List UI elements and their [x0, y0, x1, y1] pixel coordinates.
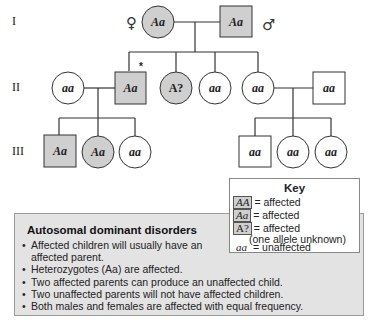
- unaffected-swatch-icon: aa: [233, 241, 250, 253]
- info-bullet: Two affected parents can produce an unaf…: [22, 276, 303, 288]
- gen2-sibling-female-2: aa: [242, 72, 274, 104]
- info-bullet: Heterozygotes (Aa) are affected.: [22, 263, 303, 275]
- key-row-aa: aa= unaffected: [233, 241, 311, 253]
- gen1-mother: Aa: [142, 6, 174, 38]
- gen2-sibling-unknown: A?: [160, 72, 192, 104]
- info-bullet: Two unaffected parents will not have aff…: [22, 288, 303, 300]
- gen2-spouse-left: aa: [52, 72, 84, 104]
- svg-text:aa: aa: [209, 81, 221, 95]
- svg-text:Aa: Aa: [228, 15, 243, 29]
- gen3-left-daughter: aa: [119, 136, 151, 168]
- gen3-left-son: Aa: [44, 135, 76, 167]
- svg-text:Aa: Aa: [150, 15, 165, 29]
- gen2-spouse-right: aa: [313, 72, 345, 104]
- svg-text:A?: A?: [169, 81, 184, 95]
- proband-asterisk-icon: *: [139, 61, 143, 72]
- affected-swatch-icon: AA: [233, 196, 252, 209]
- key-row-AA: AA= affected: [233, 196, 301, 209]
- female-symbol-icon: ♀: [126, 14, 137, 32]
- info-bullet: Both males and females are affected with…: [22, 300, 303, 312]
- gen3-right-daughter-2: aa: [315, 136, 347, 168]
- key-title: Key: [230, 182, 359, 194]
- svg-text:aa: aa: [252, 81, 264, 95]
- info-bullet: Affected children will usually have an a…: [22, 239, 206, 263]
- svg-text:aa: aa: [62, 81, 74, 95]
- male-symbol-icon: ♂: [262, 16, 275, 34]
- affected-swatch-icon: Aa: [233, 209, 251, 222]
- gen1-father: Aa: [220, 6, 252, 37]
- gen2-sibling-female: aa: [199, 72, 231, 104]
- svg-text:aa: aa: [287, 145, 299, 159]
- pedigree-lines: [59, 22, 331, 136]
- gen3-right-son: aa: [239, 136, 271, 167]
- info-title: Autosomal dominant disorders: [27, 224, 197, 236]
- svg-text:aa: aa: [325, 145, 337, 159]
- key-legend: Key AA= affected Aa= affected A?= affect…: [229, 178, 360, 253]
- svg-text:aa: aa: [323, 81, 335, 95]
- gen3-left-daughter-affected: Aa: [82, 136, 114, 168]
- svg-text:aa: aa: [129, 145, 141, 159]
- svg-text:Aa: Aa: [122, 81, 137, 95]
- gen2-proband: Aa *: [115, 61, 146, 104]
- svg-text:aa: aa: [249, 145, 261, 159]
- key-row-Aa: Aa= affected: [233, 209, 299, 222]
- svg-text:Aa: Aa: [52, 144, 67, 158]
- gen3-right-daughter-1: aa: [277, 136, 309, 168]
- svg-text:Aa: Aa: [90, 145, 105, 159]
